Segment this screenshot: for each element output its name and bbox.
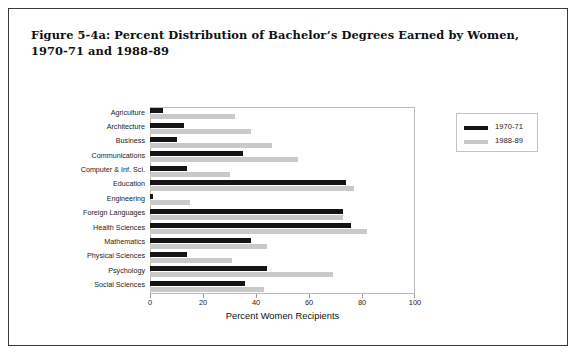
bar-group: [150, 222, 415, 236]
bar-group: [150, 265, 415, 279]
bar-1: [150, 129, 251, 134]
legend-swatch: [464, 126, 488, 130]
bar-group: [150, 236, 415, 250]
bar-1: [150, 172, 230, 177]
bar-0: [150, 252, 187, 257]
bar-group: [150, 150, 415, 164]
bar-group: [150, 280, 415, 294]
bar-1: [150, 157, 298, 162]
bar-1: [150, 215, 343, 220]
bar-1: [150, 186, 354, 191]
figure-container: Figure 5-4a: Percent Distribution of Bac…: [8, 8, 568, 346]
bar-0: [150, 180, 346, 185]
bar-0: [150, 266, 267, 271]
x-axis-title: Percent Women Recipients: [150, 310, 415, 321]
x-axis-ticks: 020406080100: [150, 294, 415, 308]
chart-legend: 1970-711988-89: [456, 113, 538, 152]
bar-1: [150, 258, 232, 263]
bar-0: [150, 209, 343, 214]
x-tick-label: 40: [252, 298, 260, 307]
bar-1: [150, 143, 272, 148]
bar-group: [150, 121, 415, 135]
category-label: Agriculture: [49, 108, 145, 117]
bar-group: [150, 251, 415, 265]
category-label: Physical Sciences: [49, 251, 145, 260]
bar-group: [150, 179, 415, 193]
bar-group: [150, 107, 415, 121]
category-label: Computer & Inf. Sci.: [49, 165, 145, 174]
category-label: Business: [49, 136, 145, 145]
x-tick-label: 0: [148, 298, 152, 307]
bar-1: [150, 244, 267, 249]
bar-0: [150, 108, 163, 113]
bar-0: [150, 223, 351, 228]
legend-item: 1988-89: [464, 136, 534, 148]
bar-1: [150, 114, 235, 119]
category-label: Psychology: [49, 266, 145, 275]
bar-1: [150, 287, 264, 292]
bar-0: [150, 151, 243, 156]
x-tick-label: 100: [409, 298, 421, 307]
category-label: Social Sciences: [49, 280, 145, 289]
bar-group: [150, 208, 415, 222]
bar-0: [150, 238, 251, 243]
bars-layer: [150, 107, 415, 294]
legend-label: 1988-89: [495, 136, 523, 145]
x-tick-label: 60: [305, 298, 313, 307]
bar-0: [150, 137, 177, 142]
bar-0: [150, 194, 153, 199]
category-label: Communications: [49, 151, 145, 160]
category-label: Engineering: [49, 194, 145, 203]
legend-swatch: [464, 140, 488, 144]
x-tick-label: 20: [199, 298, 207, 307]
category-label: Architecture: [49, 122, 145, 131]
category-label: Health Sciences: [49, 223, 145, 232]
category-label: Foreign Languages: [49, 208, 145, 217]
category-axis-labels: AgricultureArchitectureBusinessCommunica…: [49, 107, 145, 294]
plot-area: [150, 107, 415, 294]
bar-0: [150, 281, 245, 286]
bar-1: [150, 272, 333, 277]
bar-group: [150, 193, 415, 207]
figure-title: Figure 5-4a: Percent Distribution of Bac…: [31, 27, 531, 59]
legend-label: 1970-71: [495, 122, 523, 131]
bar-1: [150, 200, 190, 205]
legend-item: 1970-71: [464, 122, 534, 134]
x-tick-label: 80: [358, 298, 366, 307]
bar-0: [150, 123, 184, 128]
category-label: Education: [49, 179, 145, 188]
bar-1: [150, 229, 367, 234]
category-label: Mathematics: [49, 237, 145, 246]
bar-0: [150, 166, 187, 171]
bar-group: [150, 136, 415, 150]
bar-group: [150, 165, 415, 179]
